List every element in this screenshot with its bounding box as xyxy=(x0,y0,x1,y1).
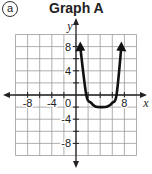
x-axis-left-arrow-icon xyxy=(3,92,10,98)
y-axis-down-arrow-icon xyxy=(73,161,79,168)
y-tick-label: 4 xyxy=(65,65,71,77)
x-axis-label: x xyxy=(142,96,149,110)
x-tick-label: -8 xyxy=(23,97,33,109)
y-axis-label: y xyxy=(66,19,73,33)
x-tick-label: 8 xyxy=(121,97,127,109)
y-axis-up-arrow-icon xyxy=(73,18,79,25)
coordinate-plane: -8-40884-4-8xy xyxy=(0,0,152,174)
y-tick-label: -4 xyxy=(61,113,71,125)
x-tick-label: 0 xyxy=(65,97,71,109)
x-tick-label: -4 xyxy=(47,97,57,109)
function-curve xyxy=(80,47,121,108)
y-tick-label: -8 xyxy=(61,137,71,149)
y-tick-label: 8 xyxy=(65,41,71,53)
